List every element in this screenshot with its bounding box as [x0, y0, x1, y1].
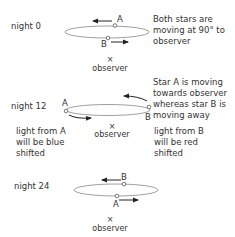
star-b-label: B	[101, 39, 107, 49]
star-b	[122, 182, 126, 186]
star-a	[115, 194, 119, 198]
star-a	[64, 109, 68, 113]
night-label: night 12	[11, 101, 46, 111]
note-line-3: whereas star B is	[153, 99, 227, 109]
binary-star-doppler-diagram: night 0 A B × observer Both stars are mo…	[0, 0, 235, 237]
panel-night-24: night 24 B A × observer	[14, 172, 158, 233]
panel-night-12: Star A is moving towards observer wherea…	[11, 77, 228, 158]
note-line-1: Both stars are	[153, 14, 213, 24]
curved-arrow-icon	[69, 115, 91, 118]
observer-mark-icon: ×	[107, 215, 114, 224]
note-line-4: moving away	[153, 110, 210, 120]
star-a-label: A	[62, 98, 68, 108]
left-note-line-2: will be blue	[16, 137, 64, 147]
star-b	[147, 105, 151, 109]
star-b-label: B	[145, 112, 151, 122]
star-a-label: A	[113, 199, 119, 209]
orbit-ellipse	[66, 105, 150, 116]
star-a	[113, 24, 117, 28]
right-note-line-3: shifted	[154, 148, 183, 158]
left-note-line-1: light from A	[16, 126, 66, 136]
curved-arrow-icon	[124, 96, 147, 101]
observer-label: observer	[92, 64, 128, 73]
night-label: night 24	[14, 181, 49, 191]
right-note-line-2: will be red	[154, 137, 198, 147]
note-line-3: observer	[153, 36, 191, 46]
panel-night-0: night 0 A B × observer Both stars are mo…	[11, 14, 225, 73]
night-label: night 0	[11, 21, 41, 31]
star-b-label: B	[121, 172, 127, 182]
observer-label: observer	[92, 224, 128, 233]
star-a-label: A	[117, 14, 123, 24]
observer-mark-icon: ×	[107, 55, 114, 64]
note-line-1: Star A is moving	[153, 77, 223, 87]
observer-label: observer	[94, 130, 130, 139]
note-line-2: towards observer	[153, 88, 228, 98]
note-line-2: moving at 90° to	[153, 25, 225, 35]
right-note-line-1: light from B	[154, 126, 204, 136]
left-note-line-3: shifted	[16, 148, 45, 158]
